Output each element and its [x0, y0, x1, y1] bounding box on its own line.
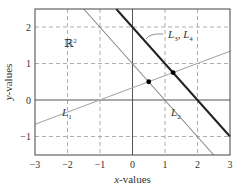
- x-tick-neg2: −2: [62, 159, 73, 170]
- y-axis-label: y-values: [2, 64, 14, 102]
- x-tick-2: 2: [195, 159, 200, 170]
- x-tick-0: 0: [130, 159, 135, 170]
- y-tick-2: 2: [26, 22, 31, 33]
- l2-label: L2: [170, 106, 181, 121]
- x-tick-1: 1: [163, 159, 168, 170]
- l3-l4-label: L3, L4: [167, 28, 193, 43]
- intersection-point-l1-l2: [146, 79, 151, 84]
- x-tick-neg3: −3: [30, 159, 41, 170]
- x-tick-neg1: −1: [95, 159, 106, 170]
- y-tick-1: 1: [26, 58, 31, 69]
- region-r2-label: ℝ2: [64, 37, 77, 49]
- l3-l4-leader-line: [146, 34, 163, 39]
- x-tick-3: 3: [228, 159, 233, 170]
- l1-label: L1: [61, 106, 72, 121]
- y-tick-neg1: −1: [20, 131, 31, 142]
- x-axis-label: x-values: [113, 173, 151, 185]
- x-tick-labels: −3 −2 −1 0 1 2 3: [30, 159, 233, 170]
- y-tick-0: 0: [26, 95, 31, 106]
- chart: 2 1 0 −1 −3 −2 −1 0 1 2 3 x-values y-val…: [0, 0, 243, 190]
- intersection-point-l1-l3: [171, 70, 176, 75]
- y-tick-labels: 2 1 0 −1: [20, 22, 31, 143]
